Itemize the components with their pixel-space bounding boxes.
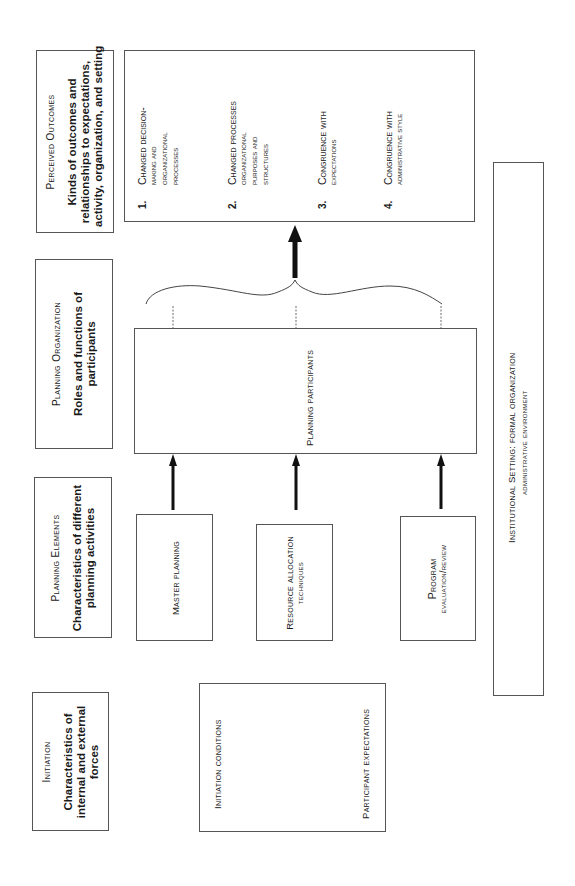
outcome-number: 1. [137,185,148,209]
header-desc-line: activity, organization, and setting [92,57,105,227]
header-desc-line: Roles and functions of [72,264,85,444]
outcome-line: administrative style [394,111,405,185]
outcome-item-4: 4. Congruence with administrative style [383,111,405,209]
planning-participants-label: Planning participants [304,350,315,446]
header-title: Initiation [41,694,52,829]
element-program-evaluation: Program evaluation/review [400,516,476,641]
outcome-number: 2. [227,185,238,209]
initiation-conditions-box: Initiation conditions Participant expect… [199,683,386,832]
main-arrow-icon [288,225,302,278]
element-master-planning: Master planning [136,514,213,641]
header-planning-elements: Planning Elements Characteristics of dif… [34,477,112,638]
outcome-line: Changed processes [227,101,238,185]
outcome-line: expectations [328,111,339,185]
element-label: evaluation/review [438,544,449,612]
header-desc-line: internal and external [75,694,88,829]
outcomes-box: 1. Changed decision- making and organiza… [124,50,475,222]
outcome-line: structures [260,101,271,185]
header-desc-line: participants [85,264,98,444]
outcome-line: Congruence with [383,111,394,185]
header-perceived-outcomes: Perceived Outcomes Kinds of outcomes and… [36,50,114,233]
outcome-number: 4. [383,185,394,209]
element-resource-allocation: Resource allocation techniques [256,524,333,641]
outcome-item-1: 1. Changed decision- making and organiza… [137,107,181,209]
outcome-number: 3. [317,185,328,209]
outcome-line: organizational [159,107,170,185]
header-desc-line: forces [88,694,101,829]
initiation-conditions-label: Initiation conditions [212,719,223,809]
element-label: Master planning [169,540,180,614]
element-label: Resource allocation [284,536,295,630]
arrow-master-planning-icon [169,454,177,510]
header-desc-line: Characteristics of different [71,480,84,635]
institutional-setting-box: Institutional Setting: formal organizati… [493,162,544,696]
header-planning-organization: Planning Organization Roles and function… [35,259,113,449]
outcome-line: Changed decision- [137,107,148,185]
arrow-program-evaluation-icon [437,454,445,509]
header-title: Planning Elements [50,480,61,635]
header-desc-line: planning activities [84,480,97,635]
header-initiation: Initiation Characteristics of internal a… [32,692,109,831]
element-label: Program [427,544,438,612]
header-title: Planning Organization [51,264,62,444]
outcome-line: Congruence with [317,111,328,185]
outcome-item-3: 3. Congruence with expectations [317,111,339,209]
institutional-setting-line2: administrative environment [519,390,530,495]
outcome-line: purposes and [249,101,260,185]
outcome-line: organizational [238,101,249,185]
outcome-line: processes [170,107,181,185]
header-desc-line: Characteristics of [62,694,75,829]
arrow-resource-allocation-icon [292,454,300,510]
institutional-setting-line1: Institutional Setting: formal organizati… [506,353,517,543]
header-desc-line: relationships to expectations, [79,57,92,227]
header-title: Perceived Outcomes [45,57,56,227]
participant-expectations-label: Participant expectations [360,709,371,819]
curly-brace [146,280,442,304]
header-desc-line: Kinds of outcomes and [66,57,79,227]
planning-participants-box: Planning participants [134,328,477,454]
element-label: techniques [295,536,306,630]
outcome-item-2: 2. Changed processes organizational purp… [227,101,271,209]
outcome-line: making and [148,107,159,185]
